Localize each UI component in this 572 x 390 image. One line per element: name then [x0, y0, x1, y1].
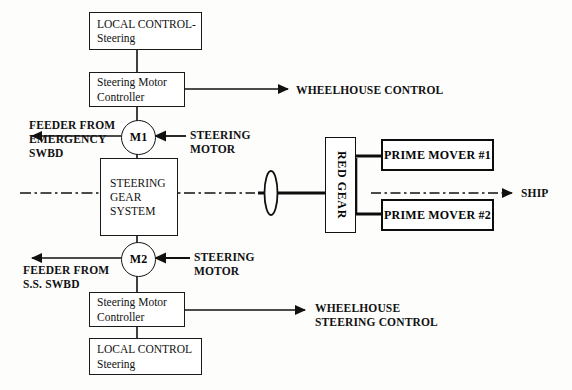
motor-m2-label: M2	[130, 252, 147, 267]
motor-m2[interactable]: M2	[121, 242, 156, 277]
wheelhouse-control-line1: WHEELHOUSE CONTROL	[296, 83, 443, 97]
steering-gear-line2: GEAR	[110, 190, 177, 204]
local-control-bottom-line1: LOCAL CONTROL	[97, 342, 201, 356]
controller-top-line1: Steering Motor	[97, 75, 184, 89]
steering-gear-line1: STEERING	[110, 176, 177, 190]
red-gear-label: RED GEAR	[333, 151, 348, 219]
propeller-icon	[265, 171, 278, 215]
motor-m1[interactable]: M1	[121, 120, 156, 155]
label-wheelhouse-steering-control: WHEELHOUSE STEERING CONTROL	[315, 301, 438, 329]
feeder-ss-line1: FEEDER FROM	[23, 263, 109, 277]
wheelhouse-steering-control-line2: STEERING CONTROL	[315, 315, 438, 329]
steering-gear-diagram: LOCAL CONTROL- Steering Steering Motor C…	[0, 0, 572, 390]
local-control-top-line1: LOCAL CONTROL-	[97, 17, 201, 31]
label-steering-motor-bottom: STEERING MOTOR	[194, 250, 255, 278]
ship-line1: SHIP	[521, 186, 548, 200]
wheelhouse-steering-control-line1: WHEELHOUSE	[315, 301, 438, 315]
box-prime-mover-2[interactable]: PRIME MOVER #2	[381, 199, 494, 231]
label-wheelhouse-control: WHEELHOUSE CONTROL	[296, 83, 443, 97]
prime-mover-2-label: PRIME MOVER #2	[384, 208, 491, 223]
label-steering-motor-top: STEERING MOTOR	[190, 128, 251, 156]
box-red-gear[interactable]: RED GEAR	[325, 137, 356, 233]
local-control-bottom-line2: Steering	[97, 357, 201, 371]
local-control-top-line2: Steering	[97, 31, 201, 45]
steering-motor-bottom-line2: MOTOR	[194, 264, 255, 278]
box-steering-gear-system[interactable]: STEERING GEAR SYSTEM	[100, 158, 178, 236]
prime-mover-1-label: PRIME MOVER #1	[384, 148, 491, 163]
label-ship: SHIP	[521, 186, 548, 200]
box-local-control-top[interactable]: LOCAL CONTROL- Steering	[89, 12, 202, 50]
feeder-emergency-line3: SWBD	[29, 146, 115, 160]
feeder-emergency-line2: EMERGENCY	[29, 132, 115, 146]
controller-bottom-line2: Controller	[97, 310, 184, 324]
steering-gear-line3: SYSTEM	[110, 204, 177, 218]
feeder-emergency-line1: FEEDER FROM	[29, 118, 115, 132]
box-steering-motor-controller-top[interactable]: Steering Motor Controller	[89, 72, 185, 107]
controller-top-line2: Controller	[97, 90, 184, 104]
steering-motor-bottom-line1: STEERING	[194, 250, 255, 264]
box-prime-mover-1[interactable]: PRIME MOVER #1	[381, 139, 494, 171]
box-steering-motor-controller-bottom[interactable]: Steering Motor Controller	[89, 292, 185, 327]
motor-m1-label: M1	[130, 130, 147, 145]
box-local-control-bottom[interactable]: LOCAL CONTROL Steering	[89, 338, 202, 375]
controller-bottom-line1: Steering Motor	[97, 295, 184, 309]
label-feeder-emergency: FEEDER FROM EMERGENCY SWBD	[29, 118, 115, 160]
steering-motor-top-line1: STEERING	[190, 128, 251, 142]
diagram-wiring	[0, 0, 572, 390]
steering-motor-top-line2: MOTOR	[190, 142, 251, 156]
feeder-ss-line2: S.S. SWBD	[23, 277, 109, 291]
label-feeder-ss: FEEDER FROM S.S. SWBD	[23, 263, 109, 291]
